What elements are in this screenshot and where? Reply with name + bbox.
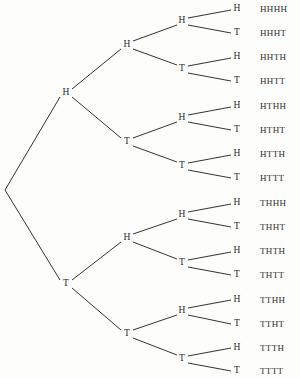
edge-HT-HTH — [133, 122, 177, 138]
outcome-HTTT: HTTT — [260, 174, 284, 183]
edge-TH-THT — [133, 242, 177, 259]
node-n-HHH: H — [175, 16, 189, 26]
edge-THH-leaf9 — [188, 219, 231, 227]
node-n-HT: T — [120, 137, 134, 147]
edge-HTH-leaf4 — [188, 107, 231, 115]
edge-HTH-leaf5 — [188, 122, 231, 130]
outcome-HTTH: HTTH — [260, 150, 285, 159]
leaf-node-leaf-12: H — [230, 295, 244, 305]
leaf-node-leaf-0: H — [230, 4, 244, 14]
leaf-node-leaf-14: H — [230, 343, 244, 353]
node-n-THH: H — [175, 210, 189, 220]
edge-H-HT — [72, 97, 121, 138]
outcome-TTTH: TTTH — [260, 344, 284, 353]
edge-TT-TTH — [133, 315, 177, 330]
node-n-HTT: T — [175, 161, 189, 171]
edge-root-H — [5, 97, 60, 190]
outcome-THHH: THHH — [260, 199, 286, 208]
node-n-TTH: H — [175, 306, 189, 316]
leaf-node-leaf-13: T — [230, 319, 244, 329]
edge-HHH-leaf1 — [188, 25, 231, 33]
node-n-T: T — [59, 279, 73, 289]
edge-HTT-leaf7 — [188, 170, 231, 178]
edge-TTT-leaf14 — [188, 348, 231, 356]
edge-THT-leaf11 — [188, 267, 231, 275]
node-n-HTH: H — [175, 113, 189, 123]
outcome-HTHH: HTHH — [260, 102, 286, 111]
outcome-TTHT: TTHT — [260, 320, 284, 329]
edge-TTT-leaf15 — [188, 363, 231, 371]
edge-THH-leaf8 — [188, 204, 231, 212]
leaf-node-leaf-10: H — [230, 246, 244, 256]
leaf-node-leaf-11: T — [230, 270, 244, 280]
node-n-HHT: T — [175, 64, 189, 74]
outcome-THTT: THTT — [260, 271, 284, 280]
edge-HHT-leaf3 — [188, 73, 231, 81]
edge-TTH-leaf13 — [188, 315, 231, 324]
node-n-TTT: T — [175, 354, 189, 364]
edge-root-T — [5, 190, 60, 280]
outcome-HHHH: HHHH — [260, 5, 287, 14]
leaf-node-leaf-4: H — [230, 101, 244, 111]
edge-HHT-leaf2 — [188, 58, 231, 66]
leaf-node-leaf-8: H — [230, 198, 244, 208]
edge-T-TH — [72, 242, 121, 280]
leaf-node-leaf-1: T — [230, 28, 244, 38]
coin-flip-tree-diagram: HTHTHTHTHTHTHTHTHTHTHTHTHTHTHT HHHHHHHTH… — [0, 0, 300, 378]
edge-TT-TTT — [133, 338, 177, 355]
node-n-H: H — [59, 88, 73, 98]
leaf-node-leaf-15: T — [230, 366, 244, 376]
edge-TH-THH — [133, 219, 177, 234]
outcome-HHTH: HHTH — [260, 53, 286, 62]
node-n-TT: T — [120, 329, 134, 339]
edge-HH-HHT — [133, 49, 177, 65]
edge-T-TT — [72, 288, 121, 330]
edge-HT-HTT — [133, 146, 177, 162]
outcome-HHHT: HHHT — [260, 29, 286, 38]
leaf-node-leaf-7: T — [230, 173, 244, 183]
node-n-TH: H — [120, 233, 134, 243]
tree-edges-layer — [0, 0, 300, 378]
outcome-HTHT: HTHT — [260, 126, 285, 135]
leaf-node-leaf-6: H — [230, 149, 244, 159]
outcome-TTHH: TTHH — [260, 296, 285, 305]
leaf-node-leaf-9: T — [230, 222, 244, 232]
outcome-THTH: THTH — [260, 247, 285, 256]
edge-HH-HHH — [133, 25, 177, 41]
outcome-THHT: THHT — [260, 223, 285, 232]
node-n-HH: H — [120, 40, 134, 50]
edge-TTH-leaf12 — [188, 300, 231, 308]
edge-HHH-leaf0 — [188, 10, 231, 18]
leaf-node-leaf-5: T — [230, 125, 244, 135]
outcome-HHTT: HHTT — [260, 77, 285, 86]
edge-THT-leaf10 — [188, 252, 231, 260]
edge-HTT-leaf6 — [188, 155, 231, 163]
node-n-THT: T — [175, 258, 189, 268]
leaf-node-leaf-2: H — [230, 52, 244, 62]
leaf-node-leaf-3: T — [230, 76, 244, 86]
edge-H-HH — [72, 49, 121, 89]
outcome-TTTT: TTTT — [260, 367, 283, 376]
